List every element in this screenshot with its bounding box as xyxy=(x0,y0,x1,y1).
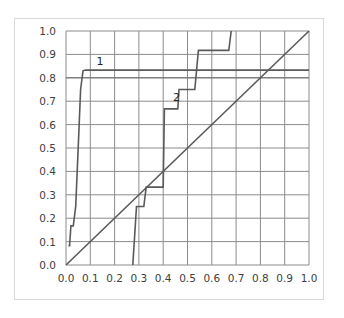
series-line-1 xyxy=(68,70,309,246)
y-tick-label: 0.9 xyxy=(39,48,56,60)
x-tick-label: 0.2 xyxy=(106,272,123,284)
x-tick-label: 0.4 xyxy=(155,272,172,284)
y-tick-label: 0.2 xyxy=(39,212,56,224)
y-tick-label: 0.7 xyxy=(39,95,56,107)
y-tick-label: 0.8 xyxy=(39,72,56,84)
x-tick-label: 0.7 xyxy=(228,272,245,284)
x-tick-label: 0.5 xyxy=(179,272,196,284)
x-tick-label: 0.0 xyxy=(58,272,75,284)
x-tick-label: 0.1 xyxy=(82,272,99,284)
y-tick-label: 0.1 xyxy=(39,236,56,248)
y-tick-label: 0.6 xyxy=(39,119,56,131)
series-label-2: 2 xyxy=(173,91,180,104)
x-tick-label: 1.0 xyxy=(301,272,318,284)
cdf-chart: 0.00.10.20.30.40.50.60.70.80.91.00.00.10… xyxy=(0,0,344,318)
y-tick-label: 0.3 xyxy=(39,189,56,201)
x-tick-label: 0.9 xyxy=(276,272,293,284)
x-tick-label: 0.6 xyxy=(203,272,220,284)
series-label-1: 1 xyxy=(97,55,104,68)
x-tick-label: 0.3 xyxy=(131,272,148,284)
y-tick-label: 0.4 xyxy=(39,165,56,177)
x-tick-label: 0.8 xyxy=(252,272,269,284)
y-tick-label: 1.0 xyxy=(39,25,56,37)
y-tick-label: 0.5 xyxy=(39,142,56,154)
y-tick-label: 0.0 xyxy=(39,259,56,271)
